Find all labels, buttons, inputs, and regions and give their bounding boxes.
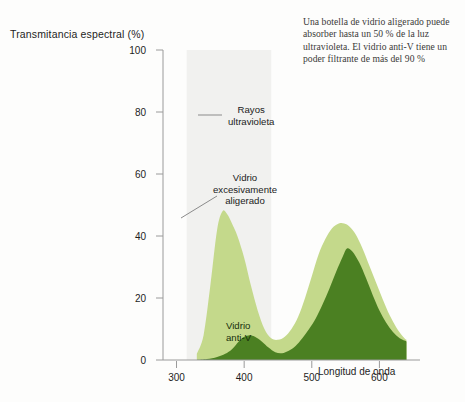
x-axis-title: Longitud de onda: [318, 366, 395, 377]
annotation-overlight-line2: excesivamente: [213, 184, 277, 196]
y-tick-label: 100: [118, 45, 146, 56]
annotation-antiv-glass: Vidrio anti-V: [226, 320, 251, 343]
y-tick-label: 60: [118, 169, 146, 180]
y-tick-label: 40: [118, 231, 146, 242]
x-tick-label: 400: [236, 372, 253, 383]
x-tick-label: 300: [168, 372, 185, 383]
y-tick-label: 0: [118, 355, 146, 366]
y-tick-label: 20: [118, 293, 146, 304]
annotation-overlightweighted-glass: Vidrio excesivamente aligerado: [213, 172, 277, 207]
y-tick-label: 80: [118, 107, 146, 118]
annotation-antiv-line2: anti-V: [226, 332, 251, 344]
annotation-overlight-line3: aligerado: [213, 195, 277, 207]
annotation-overlight-line1: Vidrio: [213, 172, 277, 184]
annotation-ultraviolet-line2: ultravioleta: [228, 116, 274, 128]
annotation-antiv-line1: Vidrio: [226, 320, 251, 332]
annotation-ultraviolet-line1: Rayos: [228, 104, 274, 116]
annotation-ultraviolet: Rayos ultravioleta: [228, 104, 274, 127]
